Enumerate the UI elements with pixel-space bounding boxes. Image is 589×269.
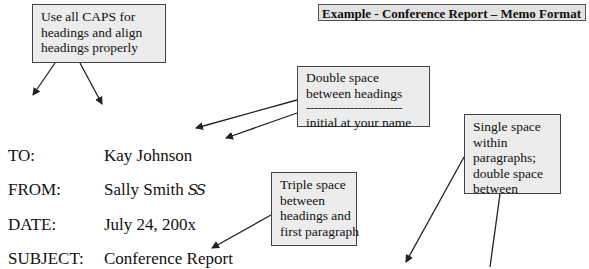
arrow-single-to-paragraph: [406, 157, 464, 262]
arrow-caps-to-value: [80, 63, 102, 104]
arrow-caps-to-label: [33, 63, 55, 95]
arrow-double-to-name: [196, 100, 297, 128]
line-single-to-paragraph: [490, 194, 500, 267]
arrow-triple-to-paragraph: [212, 215, 271, 248]
